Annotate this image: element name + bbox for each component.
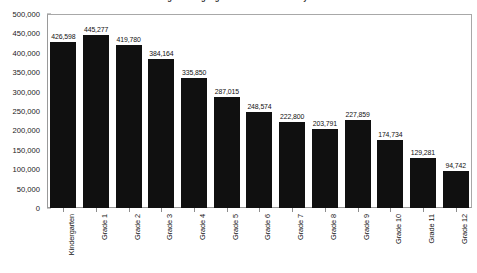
x-axis-category: Grade 3 xyxy=(145,208,178,273)
bar-group: 222,800 xyxy=(276,14,309,208)
bar-group: 174,734 xyxy=(374,14,407,208)
bars-layer: 426,598445,277419,780384,164335,850287,0… xyxy=(47,14,472,208)
bar[interactable] xyxy=(345,120,371,208)
bar[interactable] xyxy=(214,97,240,208)
x-axis-tick-mark xyxy=(63,208,64,212)
bar-group: 287,015 xyxy=(210,14,243,208)
x-axis-tick-mark xyxy=(292,208,293,212)
bar[interactable] xyxy=(443,171,469,208)
bar-value-label: 287,015 xyxy=(215,88,239,95)
bar-value-label: 174,734 xyxy=(378,131,402,138)
y-axis-tick-label: 250,000 xyxy=(13,107,40,116)
y-axis-tick-label: 450,000 xyxy=(13,29,40,38)
x-axis-category: Grade 4 xyxy=(178,208,211,273)
bar-value-label: 426,598 xyxy=(51,33,75,40)
bar-group: 203,791 xyxy=(309,14,342,208)
x-axis-tick-label: Grade 5 xyxy=(227,214,236,240)
x-axis-tick-mark xyxy=(390,208,391,212)
bar[interactable] xyxy=(148,59,174,208)
bar[interactable] xyxy=(50,42,76,208)
bar-value-label: 445,277 xyxy=(84,26,108,33)
x-axis-category: Grade 10 xyxy=(374,208,407,273)
bar-value-label: 419,780 xyxy=(117,36,141,43)
bar-group: 335,850 xyxy=(178,14,211,208)
bar-value-label: 222,800 xyxy=(280,113,304,120)
y-axis-tick-label: 0 xyxy=(36,204,40,213)
x-axis-category: Grade 8 xyxy=(309,208,342,273)
x-axis-tick-mark xyxy=(358,208,359,212)
bar[interactable] xyxy=(410,158,436,208)
bar[interactable] xyxy=(181,78,207,208)
bar-value-label: 94,742 xyxy=(445,162,465,169)
bar-value-label: 203,791 xyxy=(313,120,337,127)
x-axis-tick-mark xyxy=(227,208,228,212)
y-axis-tick-label: 50,000 xyxy=(17,184,40,193)
x-axis-tick-mark xyxy=(194,208,195,212)
y-axis-tick-label: 200,000 xyxy=(13,126,40,135)
y-axis-tick-label: 300,000 xyxy=(13,87,40,96)
x-axis-tick-label: Kindergarten xyxy=(63,214,72,255)
bar[interactable] xyxy=(83,35,109,208)
x-axis-category: Grade 12 xyxy=(439,208,472,273)
x-axis-tick-label: Grade 4 xyxy=(194,214,203,240)
y-axis-tick-label: 350,000 xyxy=(13,68,40,77)
bar-group: 426,598 xyxy=(47,14,80,208)
x-axis-tick-mark xyxy=(129,208,130,212)
bar-group: 384,164 xyxy=(145,14,178,208)
bar-group: 227,859 xyxy=(341,14,374,208)
x-axis-tick-mark xyxy=(161,208,162,212)
bar-group: 94,742 xyxy=(439,14,472,208)
y-axis-tick-label: 400,000 xyxy=(13,48,40,57)
chart-title: United States English Language Learner E… xyxy=(0,0,477,2)
x-axis-tick-label: Grade 6 xyxy=(259,214,268,240)
x-axis-tick-mark xyxy=(259,208,260,212)
y-axis-tick-label: 500,000 xyxy=(13,10,40,19)
x-axis-tick-mark xyxy=(456,208,457,212)
bar-group: 248,574 xyxy=(243,14,276,208)
bar[interactable] xyxy=(279,122,305,208)
x-axis-tick-mark xyxy=(96,208,97,212)
bar-group: 129,281 xyxy=(407,14,440,208)
bar[interactable] xyxy=(312,129,338,208)
x-axis-tick-label: Grade 10 xyxy=(390,214,399,244)
x-axis-tick-label: Grade 8 xyxy=(325,214,334,240)
x-axis-category: Grade 5 xyxy=(210,208,243,273)
x-axis-tick-label: Grade 1 xyxy=(96,214,105,240)
y-axis-tick-label: 150,000 xyxy=(13,145,40,154)
x-axis-category: Grade 2 xyxy=(112,208,145,273)
x-axis-tick-mark xyxy=(423,208,424,212)
x-axis-category: Grade 9 xyxy=(341,208,374,273)
bar-group: 445,277 xyxy=(80,14,113,208)
x-axis-tick-label: Grade 3 xyxy=(161,214,170,240)
x-axis-category: Grade 11 xyxy=(407,208,440,273)
bar-value-label: 384,164 xyxy=(149,50,173,57)
bar[interactable] xyxy=(116,45,142,208)
bar-group: 419,780 xyxy=(112,14,145,208)
y-axis: 500,000450,000400,000350,000300,000250,0… xyxy=(0,0,47,273)
x-axis-tick-label: Grade 11 xyxy=(423,214,432,243)
x-axis-tick-label: Grade 2 xyxy=(129,214,138,240)
bar-value-label: 335,850 xyxy=(182,69,206,76)
x-axis-tick-label: Grade 7 xyxy=(292,214,301,240)
bar[interactable] xyxy=(377,140,403,208)
x-axis: KindergartenGrade 1Grade 2Grade 3Grade 4… xyxy=(47,208,472,273)
bar[interactable] xyxy=(246,112,272,208)
bar-value-label: 129,281 xyxy=(411,149,435,156)
bar-value-label: 248,574 xyxy=(247,103,271,110)
bar-value-label: 227,859 xyxy=(345,111,369,118)
x-axis-tick-label: Grade 12 xyxy=(456,214,465,244)
x-axis-category: Kindergarten xyxy=(47,208,80,273)
x-axis-tick-label: Grade 9 xyxy=(358,214,367,240)
x-axis-category: Grade 7 xyxy=(276,208,309,273)
y-axis-tick-label: 100,000 xyxy=(13,165,40,174)
x-axis-category: Grade 1 xyxy=(80,208,113,273)
x-axis-tick-mark xyxy=(325,208,326,212)
x-axis-category: Grade 6 xyxy=(243,208,276,273)
bar-chart: United States English Language Learner E… xyxy=(0,0,477,273)
